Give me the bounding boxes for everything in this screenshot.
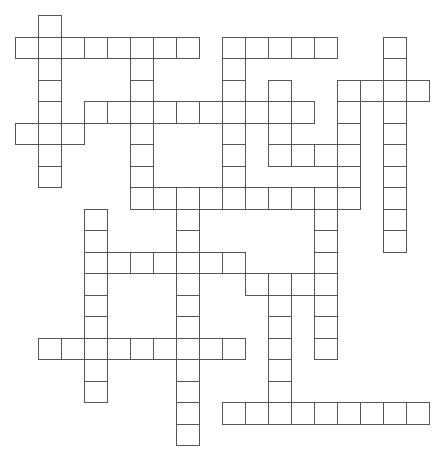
crossword-cell[interactable] [176,230,200,253]
crossword-cell[interactable] [176,338,200,361]
crossword-cell[interactable] [130,252,154,275]
crossword-cell[interactable] [268,316,292,339]
crossword-cell[interactable] [222,144,246,167]
crossword-cell[interactable] [337,123,361,146]
crossword-cell[interactable] [84,101,108,124]
crossword-cell[interactable] [222,58,246,81]
crossword-cell[interactable] [337,187,361,210]
crossword-cell[interactable] [383,166,407,189]
crossword-cell[interactable] [222,252,246,275]
crossword-cell[interactable] [84,230,108,253]
crossword-cell[interactable] [383,187,407,210]
crossword-cell[interactable] [314,187,338,210]
crossword-cell[interactable] [176,424,200,447]
crossword-cell[interactable] [383,209,407,232]
crossword-cell[interactable] [176,273,200,296]
crossword-cell[interactable] [337,144,361,167]
crossword-cell[interactable] [268,144,292,167]
crossword-cell[interactable] [199,101,223,124]
crossword-cell[interactable] [291,101,315,124]
crossword-cell[interactable] [314,295,338,318]
crossword-cell[interactable] [176,295,200,318]
crossword-cell[interactable] [130,80,154,103]
crossword-cell[interactable] [130,338,154,361]
crossword-cell[interactable] [268,187,292,210]
crossword-cell[interactable] [337,402,361,425]
crossword-cell[interactable] [199,252,223,275]
crossword-cell[interactable] [130,37,154,60]
crossword-cell[interactable] [130,166,154,189]
crossword-cell[interactable] [291,37,315,60]
crossword-cell[interactable] [291,402,315,425]
crossword-cell[interactable] [107,101,131,124]
crossword-cell[interactable] [314,338,338,361]
crossword-cell[interactable] [337,166,361,189]
crossword-cell[interactable] [176,187,200,210]
crossword-cell[interactable] [268,123,292,146]
crossword-cell[interactable] [84,273,108,296]
crossword-cell[interactable] [176,252,200,275]
crossword-cell[interactable] [314,273,338,296]
crossword-cell[interactable] [38,58,62,81]
crossword-cell[interactable] [406,402,430,425]
crossword-cell[interactable] [107,338,131,361]
crossword-cell[interactable] [222,166,246,189]
crossword-cell[interactable] [245,273,269,296]
crossword-cell[interactable] [222,101,246,124]
crossword-cell[interactable] [360,80,384,103]
crossword-cell[interactable] [222,338,246,361]
crossword-cell[interactable] [199,338,223,361]
crossword-cell[interactable] [222,402,246,425]
crossword-cell[interactable] [245,37,269,60]
crossword-cell[interactable] [61,37,85,60]
crossword-cell[interactable] [176,402,200,425]
crossword-cell[interactable] [199,187,223,210]
crossword-cell[interactable] [84,316,108,339]
crossword-cell[interactable] [222,123,246,146]
crossword-cell[interactable] [383,37,407,60]
crossword-cell[interactable] [268,80,292,103]
crossword-cell[interactable] [176,359,200,382]
crossword-cell[interactable] [222,37,246,60]
crossword-cell[interactable] [38,80,62,103]
crossword-cell[interactable] [107,37,131,60]
crossword-cell[interactable] [222,187,246,210]
crossword-cell[interactable] [383,101,407,124]
crossword-cell[interactable] [176,316,200,339]
crossword-cell[interactable] [314,144,338,167]
crossword-cell[interactable] [268,338,292,361]
crossword-cell[interactable] [153,252,177,275]
crossword-cell[interactable] [153,187,177,210]
crossword-cell[interactable] [130,58,154,81]
crossword-cell[interactable] [337,80,361,103]
crossword-cell[interactable] [15,123,39,146]
crossword-cell[interactable] [84,295,108,318]
crossword-cell[interactable] [383,230,407,253]
crossword-cell[interactable] [268,402,292,425]
crossword-cell[interactable] [176,381,200,404]
crossword-cell[interactable] [153,37,177,60]
crossword-cell[interactable] [268,101,292,124]
crossword-cell[interactable] [245,402,269,425]
crossword-cell[interactable] [107,252,131,275]
crossword-cell[interactable] [176,101,200,124]
crossword-cell[interactable] [38,123,62,146]
crossword-cell[interactable] [268,295,292,318]
crossword-cell[interactable] [383,58,407,81]
crossword-cell[interactable] [291,187,315,210]
crossword-cell[interactable] [153,338,177,361]
crossword-cell[interactable] [222,80,246,103]
crossword-cell[interactable] [38,144,62,167]
crossword-cell[interactable] [314,402,338,425]
crossword-cell[interactable] [268,37,292,60]
crossword-cell[interactable] [314,209,338,232]
crossword-cell[interactable] [383,144,407,167]
crossword-cell[interactable] [383,123,407,146]
crossword-cell[interactable] [291,273,315,296]
crossword-cell[interactable] [38,338,62,361]
crossword-cell[interactable] [84,338,108,361]
crossword-cell[interactable] [84,37,108,60]
crossword-cell[interactable] [245,101,269,124]
crossword-cell[interactable] [268,273,292,296]
crossword-cell[interactable] [130,144,154,167]
